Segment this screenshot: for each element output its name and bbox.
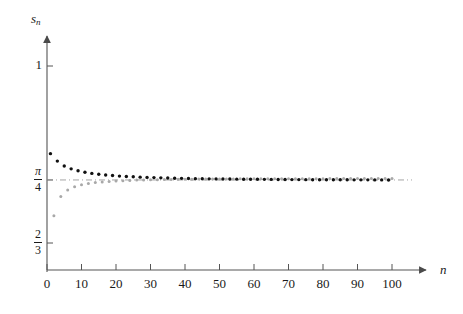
data-point [342, 177, 345, 180]
data-point [235, 177, 238, 180]
y-tick-label: π4 [18, 165, 42, 193]
data-point [363, 177, 366, 180]
data-point [339, 178, 342, 181]
data-point [246, 177, 249, 180]
y-tick-label: 1 [18, 57, 42, 73]
data-point [94, 181, 97, 184]
plot-canvas [0, 0, 463, 314]
data-point [194, 177, 197, 180]
data-point [184, 178, 187, 181]
data-point [249, 178, 252, 181]
data-point [391, 177, 394, 180]
x-axis-label: n [440, 262, 447, 278]
data-point [294, 177, 297, 180]
data-point [80, 183, 83, 186]
data-point [159, 176, 162, 179]
data-point [301, 177, 304, 180]
data-point [349, 177, 352, 180]
data-point [180, 177, 183, 180]
data-point [152, 176, 155, 179]
series-2 [52, 177, 393, 217]
axes-group [47, 36, 426, 272]
data-point [177, 178, 180, 181]
data-point [145, 176, 148, 179]
data-point [280, 177, 283, 180]
x-axis-ticks [47, 264, 392, 270]
data-point [149, 178, 152, 181]
y-tick-label: 23 [18, 228, 42, 256]
data-point [207, 177, 210, 180]
data-point [83, 171, 86, 174]
series-1 [49, 152, 390, 182]
data-point [118, 174, 121, 177]
data-point [276, 178, 279, 181]
data-point [253, 177, 256, 180]
data-point [111, 174, 114, 177]
data-point [366, 178, 369, 181]
data-point [52, 214, 55, 217]
data-point [121, 179, 124, 182]
data-point [256, 178, 259, 181]
data-point [173, 177, 176, 180]
data-point [311, 178, 314, 181]
data-point [135, 179, 138, 182]
data-point [290, 178, 293, 181]
data-point [221, 177, 224, 180]
data-point [204, 178, 207, 181]
data-point [232, 177, 235, 180]
data-point [318, 178, 321, 181]
data-point [211, 178, 214, 181]
data-point [263, 178, 266, 181]
data-point [384, 177, 387, 180]
data-point [297, 178, 300, 181]
series-points [49, 152, 394, 217]
data-point [156, 178, 159, 181]
data-point [315, 177, 318, 180]
y-axis-label: sn [31, 11, 41, 27]
data-point [308, 177, 311, 180]
data-point [228, 177, 231, 180]
data-point [49, 152, 52, 155]
x-tick-label: 100 [367, 276, 417, 292]
data-point [190, 178, 193, 181]
data-point [59, 195, 62, 198]
data-point [387, 178, 390, 181]
data-point [345, 178, 348, 181]
data-point [166, 176, 169, 179]
data-point [225, 177, 228, 180]
data-point [201, 177, 204, 180]
data-point [66, 189, 69, 192]
data-point [335, 177, 338, 180]
data-point [108, 180, 111, 183]
data-point [138, 175, 141, 178]
data-point [104, 173, 107, 176]
data-point [170, 178, 173, 181]
data-point [76, 169, 79, 172]
data-point [373, 178, 376, 181]
data-point [273, 177, 276, 180]
data-point [218, 177, 221, 180]
data-point [304, 178, 307, 181]
data-point [325, 178, 328, 181]
data-point [87, 182, 90, 185]
data-point [380, 178, 383, 181]
data-point [115, 179, 118, 182]
data-point [266, 177, 269, 180]
data-point [69, 167, 72, 170]
data-point [322, 177, 325, 180]
data-point [125, 175, 128, 178]
data-point [356, 177, 359, 180]
data-point [97, 173, 100, 176]
data-point [163, 178, 166, 181]
data-point [287, 177, 290, 180]
data-point [283, 178, 286, 181]
data-point [259, 177, 262, 180]
data-point [242, 178, 245, 181]
data-point [90, 172, 93, 175]
data-point [352, 178, 355, 181]
data-point [132, 175, 135, 178]
data-point [197, 178, 200, 181]
chart-figure: sn n 0102030405060708090100 1π423 [0, 0, 463, 314]
data-point [359, 178, 362, 181]
data-point [101, 180, 104, 183]
